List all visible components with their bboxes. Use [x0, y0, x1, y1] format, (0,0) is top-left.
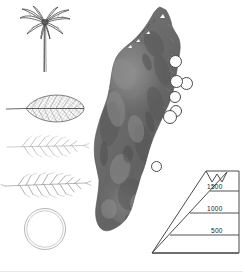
occurrence-point-4[interactable]	[169, 91, 181, 103]
feather-leaf-icon	[0, 88, 92, 128]
occurrence-point-1[interactable]	[169, 55, 182, 68]
pinnate-branch-icon	[0, 128, 92, 166]
pinnate-branch-icon	[0, 164, 92, 204]
elevation-label-1000: 1000	[207, 205, 223, 212]
ring-icon	[0, 202, 92, 258]
bottom-divider	[0, 271, 243, 272]
elevation-profile-legend: 1500 1000 500	[148, 168, 243, 260]
occurrence-point-6[interactable]	[163, 110, 177, 124]
figure-canvas: 1500 1000 500	[0, 0, 243, 280]
occurrence-point-3[interactable]	[170, 75, 183, 88]
palm-tree-icon	[0, 6, 92, 86]
elevation-label-1500: 1500	[207, 183, 223, 190]
elevation-label-500: 500	[211, 227, 223, 234]
morphology-icon-column	[0, 0, 92, 262]
